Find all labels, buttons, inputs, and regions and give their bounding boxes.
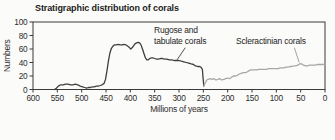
x-tick-label: 100 [270, 93, 284, 103]
y-tick-label: 40 [19, 58, 28, 68]
y-tick-label: 100 [14, 17, 28, 27]
x-tick-label: 50 [296, 93, 305, 103]
annotation-leader-scleractinian [294, 48, 299, 63]
x-tick-label: 250 [197, 93, 211, 103]
chart-title: Stratigraphic distribution of corals [35, 3, 179, 13]
x-tick-label: 0 [323, 93, 328, 103]
x-tick-label: 600 [26, 93, 40, 103]
y-axis-title: Numbers [1, 22, 12, 90]
x-axis-title: Millions of years [33, 104, 325, 114]
series-line-rugose-tabulate-corals [54, 42, 203, 89]
x-tick-label: 450 [99, 93, 113, 103]
x-tick-label: 200 [221, 93, 235, 103]
annotation-rugose-line2: tabulate corals [154, 36, 206, 47]
y-tick-label: 60 [19, 44, 28, 54]
x-tick-label: 300 [172, 93, 186, 103]
x-tick-label: 150 [245, 93, 259, 103]
annotation-rugose-tabulate-corals: Rugose and tabulate corals [154, 25, 206, 46]
chart-canvas: 0204060801006005505004504003503002502001… [0, 0, 335, 140]
x-tick-label: 350 [148, 93, 162, 103]
annotation-rugose-line1: Rugose and [154, 25, 206, 36]
y-tick-label: 20 [19, 71, 28, 81]
series-line-scleractinian-corals [204, 64, 325, 86]
x-tick-label: 550 [51, 93, 65, 103]
y-tick-label: 80 [19, 31, 28, 41]
x-tick-label: 400 [124, 93, 138, 103]
annotation-leader-rugose-tabulate [177, 48, 185, 60]
x-tick-label: 500 [75, 93, 89, 103]
annotation-scleractinian-corals: Scleractinian corals [236, 36, 306, 47]
coral-distribution-figure: 0204060801006005505004504003503002502001… [0, 0, 335, 140]
